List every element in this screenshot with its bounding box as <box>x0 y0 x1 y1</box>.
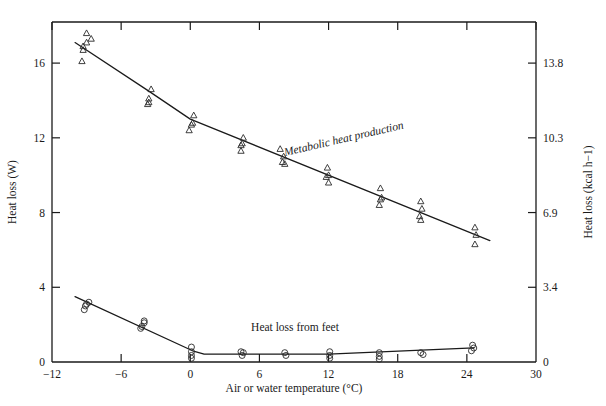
y-right-tick-label-4: 13.8 <box>543 57 563 69</box>
y-left-tick-label-4: 4 <box>39 281 45 293</box>
data-point-triangle <box>148 86 154 92</box>
y-right-tick-label-1: 3.4 <box>543 281 558 293</box>
x-tick-label-0: 0 <box>187 368 193 380</box>
y-right-tick-label-3: 10.3 <box>543 132 563 144</box>
y-axis-right-title: Heat loss (kcal h−1) <box>582 145 595 238</box>
data-point-triangle <box>325 179 331 185</box>
x-tick-label-30: 30 <box>530 368 542 380</box>
y-right-tick-label-0: 0 <box>543 356 549 368</box>
data-point-triangle <box>377 185 383 191</box>
data-point-triangle <box>240 135 246 141</box>
x-tick-label--12: −12 <box>43 368 61 380</box>
x-axis-title: Air or water temperature (°C) <box>226 382 363 395</box>
data-point-triangle <box>419 206 425 212</box>
x-tick-label-18: 18 <box>392 368 404 380</box>
x-tick-label-6: 6 <box>257 368 263 380</box>
x-tick-label--6: −6 <box>115 368 127 380</box>
y-left-tick-label-8: 8 <box>39 207 45 219</box>
data-point-triangle <box>88 36 94 42</box>
x-tick-label-12: 12 <box>323 368 335 380</box>
data-point-triangle <box>83 30 89 36</box>
metabolic-heat-production-label: Metabolic heat production <box>282 119 405 159</box>
data-point-triangle <box>418 198 424 204</box>
data-point-triangle <box>324 164 330 170</box>
x-tick-label-24: 24 <box>461 368 473 380</box>
data-point-triangle <box>79 58 85 64</box>
series-line-metabolic <box>75 43 490 241</box>
data-point-circle <box>81 307 87 313</box>
y-left-tick-label-0: 0 <box>39 356 45 368</box>
data-point-triangle <box>191 112 197 118</box>
y-right-tick-label-2: 6.9 <box>543 207 558 219</box>
data-point-triangle <box>376 202 382 208</box>
heat-loss-from-feet-label: Heat loss from feet <box>251 321 340 333</box>
y-left-tick-label-12: 12 <box>34 132 46 144</box>
data-point-triangle <box>418 217 424 223</box>
y-axis-left-title: Heat loss (W) <box>6 160 19 224</box>
y-left-tick-label-16: 16 <box>34 57 46 69</box>
data-point-triangle <box>238 148 244 154</box>
data-point-triangle <box>186 127 192 133</box>
heat-loss-chart: −12−60612182430048121603.46.910.313.8Air… <box>0 0 606 406</box>
data-point-triangle <box>472 241 478 247</box>
data-point-triangle <box>472 224 478 230</box>
figure-container: −12−60612182430048121603.46.910.313.8Air… <box>0 0 606 406</box>
